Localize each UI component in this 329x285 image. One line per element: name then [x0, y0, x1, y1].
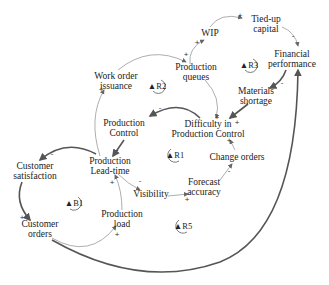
loop-r1: ▲R1	[166, 150, 184, 160]
polarity-sign: -	[139, 176, 142, 185]
link-leadtime-visibility	[118, 174, 140, 190]
node-production-queues: Production queues	[175, 62, 217, 82]
node-materials-shortage: Materials shortage	[238, 86, 274, 106]
polarity-sign: -	[51, 149, 54, 158]
links-layer	[0, 0, 329, 285]
polarity-sign: +	[238, 11, 243, 20]
node-difficulty-in-pc: Difficulty in Production Control	[171, 119, 244, 139]
node-production-lead-time: Production Lead-time	[89, 156, 131, 176]
polarity-sign: +	[215, 113, 220, 122]
link-materials-difficulty	[230, 104, 248, 118]
loop-b1: ▲B1	[65, 198, 83, 208]
node-visibility: Visibility	[133, 189, 168, 199]
loop-r2: ▲R2	[148, 81, 166, 91]
node-tied-up-capital: Tied-up capital	[251, 14, 281, 34]
polarity-sign: +	[115, 230, 120, 239]
polarity-sign: +	[20, 213, 25, 222]
polarity-sign: -	[116, 145, 119, 154]
polarity-sign: +	[110, 178, 115, 187]
link-orders-load	[52, 226, 116, 247]
polarity-sign: +	[227, 136, 232, 145]
polarity-sign: -	[292, 31, 295, 40]
node-forecast-accuracy: Forecast accuracy	[187, 177, 221, 197]
polarity-sign: +	[195, 38, 200, 47]
node-customer-satisfaction: Customer satisfaction	[13, 161, 56, 181]
polarity-sign: -	[228, 166, 231, 175]
polarity-sign: +	[99, 85, 104, 94]
node-production-load: Production load	[101, 209, 143, 229]
node-change-orders: Change orders	[209, 152, 264, 162]
causal-loop-diagram: Tied-up capitalWIPFinancial performanceP…	[0, 0, 329, 285]
link-load-leadtime	[115, 175, 122, 210]
node-production-control: Production Control	[103, 118, 145, 138]
polarity-sign: -	[281, 78, 284, 87]
polarity-sign: +	[184, 50, 189, 59]
polarity-sign: +	[235, 118, 240, 127]
loop-r3: ▲R3	[240, 60, 258, 70]
polarity-sign: +	[185, 195, 190, 204]
link-difficulty-pc	[150, 107, 200, 118]
link-leadtime-satisfaction	[40, 147, 96, 160]
polarity-sign: -	[159, 103, 162, 112]
node-wip: WIP	[201, 28, 218, 38]
node-financial-performance: Financial performance	[268, 49, 316, 69]
link-capital-financial	[282, 27, 298, 46]
node-customer-orders: Customer orders	[22, 219, 59, 239]
loop-r5: ▲R5	[174, 221, 192, 231]
